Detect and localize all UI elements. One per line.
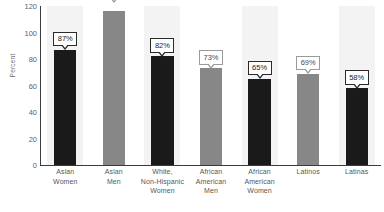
plot-area: 87%82%73%65%69%58% xyxy=(41,6,381,165)
y-axis-title: Percent xyxy=(9,36,16,96)
y-tick-label: 0 xyxy=(3,161,37,170)
bar-african-american-women[interactable] xyxy=(248,79,270,165)
x-axis-labels: AsianWomenAsianMenWhite,Non-HispanicWome… xyxy=(41,167,381,212)
bar-asian-men[interactable] xyxy=(103,11,125,165)
bar-latinas[interactable] xyxy=(346,88,368,165)
value-callout: 82% xyxy=(150,38,174,53)
y-axis-ticks: 020406080100120 xyxy=(0,0,37,212)
callout-arrow-icon xyxy=(110,0,118,3)
value-callout: 73% xyxy=(199,50,223,65)
callout-arrow-icon xyxy=(207,64,215,69)
callout-arrow-icon xyxy=(61,45,69,50)
value-callout: 87% xyxy=(53,32,77,47)
value-callout: 58% xyxy=(345,70,369,85)
y-tick-label: 40 xyxy=(3,108,37,117)
bar-white-non-hispanic-women[interactable] xyxy=(151,56,173,165)
bar-chart: 020406080100120 Percent 87%82%73%65%69%5… xyxy=(0,0,384,212)
y-tick-label: 120 xyxy=(3,2,37,11)
x-tick-label: Latinas xyxy=(328,167,384,177)
callout-arrow-icon xyxy=(158,52,166,57)
value-callout: 69% xyxy=(296,56,320,71)
bar-latinos[interactable] xyxy=(297,74,319,165)
bar-asian-women[interactable] xyxy=(54,50,76,165)
value-callout: 65% xyxy=(248,61,272,76)
callout-arrow-icon xyxy=(353,84,361,89)
bar-african-american-men[interactable] xyxy=(200,68,222,165)
callout-arrow-icon xyxy=(256,74,264,79)
callout-arrow-icon xyxy=(304,69,312,74)
y-tick-label: 20 xyxy=(3,134,37,143)
